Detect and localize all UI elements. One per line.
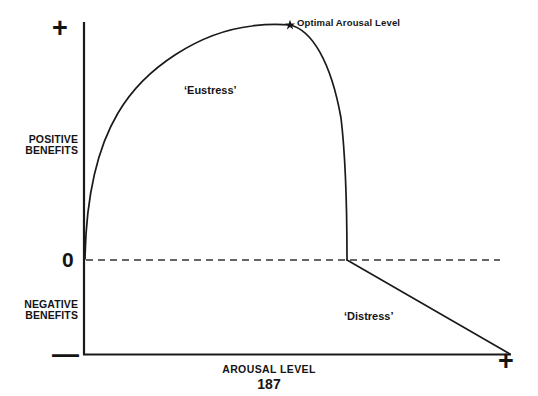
page-number: 187 <box>0 377 538 392</box>
x-axis-label: AROUSAL LEVEL <box>0 364 538 375</box>
negative-benefits-label: NEGATIVE BENEFITS <box>0 299 78 322</box>
positive-benefits-label: POSITIVE BENEFITS <box>0 134 78 157</box>
zero-axis-label: 0 <box>62 249 74 272</box>
distress-region-label: ‘Distress’ <box>344 311 394 323</box>
y-axis-positive-sign: + <box>52 14 68 43</box>
eustress-curve <box>85 24 290 259</box>
optimal-arousal-level-label: Optimal Arousal Level <box>297 18 400 28</box>
distress-collapse-curve <box>290 25 347 260</box>
stress-arousal-curve-figure: + — + 0 POSITIVE BENEFITS NEGATIVE BENEF… <box>0 0 538 396</box>
plot-canvas <box>0 0 538 396</box>
distress-decline-line <box>347 260 510 354</box>
eustress-region-label: ‘Eustress’ <box>184 85 237 97</box>
